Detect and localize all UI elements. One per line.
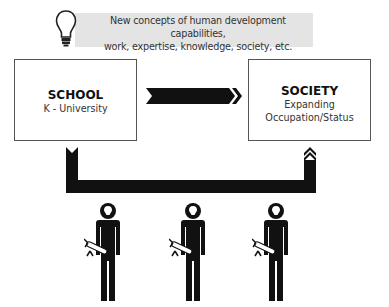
society-line-1: Expanding	[249, 98, 370, 111]
school-subtitle: K - University	[15, 102, 136, 115]
society-title: SOCIETY	[249, 84, 370, 98]
u-return-arrow-icon	[66, 147, 316, 193]
school-title: SCHOOL	[15, 88, 136, 102]
person-with-diploma-icon	[84, 203, 128, 303]
society-line-2: Occupation/Status	[249, 111, 370, 124]
right-arrow-icon	[146, 88, 242, 104]
society-box: SOCIETY Expanding Occupation/Status	[248, 59, 371, 141]
person-with-diploma-icon	[252, 203, 296, 303]
person-with-diploma-icon	[169, 203, 213, 303]
school-box: SCHOOL K - University	[14, 59, 137, 141]
